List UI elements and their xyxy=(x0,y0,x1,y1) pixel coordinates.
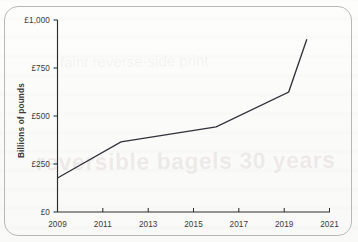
data-series-line xyxy=(58,39,307,178)
x-tick-label-2015: 2015 xyxy=(184,220,203,229)
x-tick-label-2021: 2021 xyxy=(320,220,339,229)
y-tick-label-1000: £1,000 xyxy=(24,16,50,25)
y-tick-label-500: £500 xyxy=(31,112,50,121)
line-chart: £1,000 £750 £500 £250 £0 2009 2011 2013 … xyxy=(0,0,358,242)
y-tick-marks xyxy=(54,20,58,212)
y-tick-label-0: £0 xyxy=(41,208,51,217)
x-tick-label-2019: 2019 xyxy=(275,220,294,229)
x-tick-label-2011: 2011 xyxy=(94,220,112,229)
x-tick-label-2017: 2017 xyxy=(229,220,248,229)
x-tick-marks xyxy=(58,208,330,212)
x-tick-label-2009: 2009 xyxy=(48,220,67,229)
y-axis-title: Billions of pounds xyxy=(17,83,26,158)
y-tick-label-250: £250 xyxy=(31,160,50,169)
y-tick-label-750: £750 xyxy=(31,64,50,73)
x-tick-label-2013: 2013 xyxy=(139,220,158,229)
